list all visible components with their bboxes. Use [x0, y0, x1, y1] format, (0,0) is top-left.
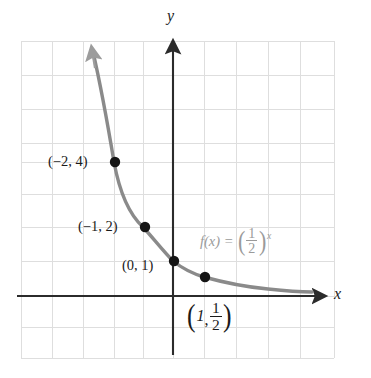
- point-label-fraction: 1 2: [210, 300, 222, 333]
- fraction-numerator: 1: [210, 300, 222, 316]
- equation-base-numerator: 1: [246, 226, 257, 240]
- paren-open-glyph: (: [187, 304, 196, 328]
- data-point-0-1: [169, 256, 179, 266]
- data-point-neg2-4: [110, 157, 120, 167]
- equation-exponent: x: [267, 231, 271, 241]
- equation-base-fraction: 1 2: [246, 226, 257, 256]
- data-point-1-half: [200, 272, 210, 282]
- equation-paren-open: (: [237, 230, 244, 252]
- function-equation-prefix: f(x) =: [200, 234, 234, 249]
- point-label-comma: ,: [204, 312, 209, 328]
- grid-lines: [21, 41, 334, 358]
- function-curve: [93, 52, 312, 292]
- point-label-neg1-2: (−1, 2): [78, 219, 118, 234]
- point-label-1-one-half: ( 1 , 1 2 ): [186, 300, 233, 333]
- point-label-x-value: 1: [196, 308, 204, 324]
- x-axis-label: x: [334, 286, 341, 302]
- fraction-denominator: 2: [210, 317, 222, 333]
- graph-figure: y x (−2, 4) (−1, 2) (0, 1) ( 1 , 1 2 ) f…: [0, 0, 371, 378]
- function-equation-label: f(x) = ( 1 2 ) x: [200, 226, 271, 256]
- data-point-neg1-2: [140, 222, 150, 232]
- equation-paren-close: ): [259, 230, 266, 252]
- point-label-neg2-4: (−2, 4): [48, 154, 88, 169]
- equation-base-denominator: 2: [246, 241, 257, 255]
- paren-close-glyph: ): [223, 304, 232, 328]
- y-axis-label: y: [167, 8, 174, 24]
- point-label-0-1: (0, 1): [122, 258, 153, 273]
